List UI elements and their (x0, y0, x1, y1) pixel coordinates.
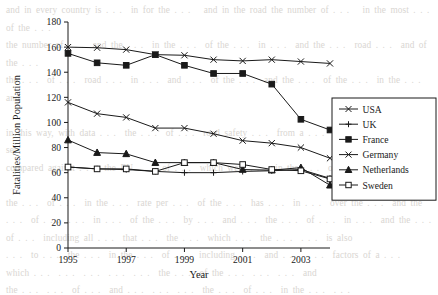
marker-square-filled (298, 117, 304, 123)
marker-square-open (153, 169, 159, 175)
y-tick-label: 40 (51, 192, 61, 203)
axis-labels-group: 0204060801001201401601801995199719992001… (11, 16, 311, 280)
marker-triangle-filled (94, 149, 101, 155)
x-tick-label: 1997 (117, 254, 136, 265)
marker-triangle-filled (65, 136, 72, 142)
marker-square-filled (240, 71, 246, 77)
y-axis-label: Fatalities/Million Population (11, 74, 22, 195)
series-group (65, 44, 334, 188)
x-tick-label: 2003 (291, 254, 310, 265)
axes-group (64, 22, 330, 252)
marker-square-open (346, 182, 351, 187)
y-tick-label: 60 (51, 167, 61, 178)
series-path (68, 53, 330, 130)
y-tick-label: 20 (51, 217, 61, 228)
series-germany (65, 99, 333, 161)
marker-square-filled (211, 71, 217, 77)
y-tick-label: 140 (47, 67, 62, 78)
legend-label: USA (363, 104, 382, 115)
marker-square-open (94, 166, 100, 172)
legend-label: Netherlands (363, 164, 410, 175)
marker-square-open (211, 160, 217, 166)
marker-square-open (123, 166, 129, 172)
y-tick-label: 120 (47, 92, 62, 103)
marker-plus (210, 170, 216, 176)
series-sweden (65, 160, 333, 182)
y-tick-label: 80 (51, 142, 61, 153)
marker-square-open (298, 168, 304, 174)
series-path (68, 47, 330, 63)
legend-label: Sweden (363, 180, 394, 191)
marker-square-filled (65, 51, 71, 57)
series-path (68, 102, 330, 158)
marker-plus (181, 170, 187, 176)
marker-square-filled (269, 81, 275, 87)
marker-square-open (240, 162, 246, 168)
marker-square-open (269, 167, 275, 173)
series-uk (65, 164, 333, 182)
legend-label: France (363, 134, 389, 145)
marker-square-open (65, 164, 71, 170)
y-tick-label: 180 (47, 16, 62, 27)
series-path (68, 163, 330, 179)
marker-square-open (182, 160, 188, 166)
legend-label: UK (363, 119, 377, 130)
marker-square-filled (94, 60, 100, 66)
x-tick-label: 2001 (233, 254, 252, 265)
figure-root: and in every country is . . . in for the… (0, 0, 438, 295)
y-tick-label: 160 (47, 42, 62, 53)
line-chart: 0204060801001201401601801995199719992001… (0, 0, 438, 295)
series-france (65, 51, 333, 133)
marker-square-filled (153, 52, 159, 58)
marker-square-filled (123, 63, 129, 69)
x-tick-label: 1995 (58, 254, 77, 265)
legend-label: Germany (363, 149, 399, 160)
marker-square-filled (182, 63, 188, 69)
chart-legend: USAUKFranceGermanyNetherlandsSweden (332, 98, 436, 200)
x-tick-label: 1999 (175, 254, 194, 265)
x-axis-label: Year (189, 269, 209, 280)
marker-square-filled (346, 137, 351, 142)
y-tick-label: 100 (47, 117, 62, 128)
y-tick-label: 0 (56, 242, 61, 253)
